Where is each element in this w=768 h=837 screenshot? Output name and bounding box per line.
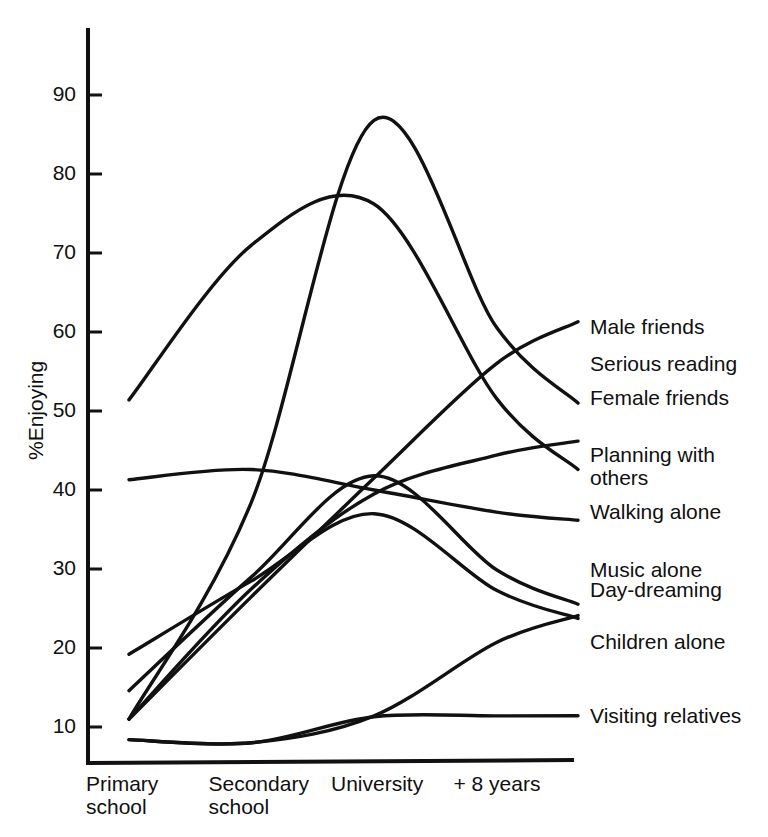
series-line: [129, 616, 578, 744]
y-tick-label: 80: [32, 161, 76, 185]
y-tick-label: 30: [32, 556, 76, 580]
chart-figure: %Enjoying 102030405060708090 Primary sch…: [0, 0, 768, 837]
y-tick-label: 10: [32, 714, 76, 738]
x-category-label: University: [331, 772, 423, 795]
y-tick-label: 60: [32, 319, 76, 343]
y-axis-ticks: [88, 95, 102, 727]
series-line: [129, 715, 578, 744]
series-line: [129, 322, 578, 719]
y-tick-label: 20: [32, 635, 76, 659]
series-label: Female friends: [590, 386, 729, 409]
y-tick-label: 40: [32, 477, 76, 501]
series-label: Visiting relatives: [590, 704, 741, 727]
series-lines: [129, 117, 578, 744]
series-line: [129, 514, 578, 655]
series-label: Music alone: [590, 558, 702, 581]
x-category-label: + 8 years: [454, 772, 541, 795]
series-label: Walking alone: [590, 500, 721, 523]
axes: [88, 30, 572, 763]
y-tick-label: 50: [32, 398, 76, 422]
series-label: Serious reading: [590, 352, 737, 375]
series-label: Day-dreaming: [590, 578, 722, 601]
x-category-label: Primary school: [86, 772, 158, 818]
y-tick-label: 70: [32, 240, 76, 264]
series-line: [129, 469, 578, 520]
series-line: [129, 195, 578, 469]
x-axis-line: [88, 760, 572, 763]
x-category-label: Secondary school: [209, 772, 309, 818]
series-label: Planning with others: [590, 443, 715, 489]
y-tick-label: 90: [32, 82, 76, 106]
series-label: Children alone: [590, 630, 725, 653]
series-label: Male friends: [590, 315, 704, 338]
